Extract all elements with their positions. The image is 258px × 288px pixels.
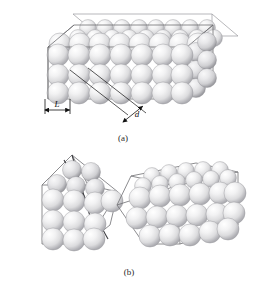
panel-a-caption: (a) (118, 133, 128, 143)
figure-canvas: d L (a) (0, 0, 258, 288)
crystal-slip-figure: d L (a) (0, 0, 258, 288)
dimension-label-d: d (135, 109, 140, 119)
dimension-label-L: L (53, 99, 59, 109)
panel-b-left-atoms-lower (42, 228, 105, 251)
panel-b-caption: (b) (124, 267, 135, 277)
